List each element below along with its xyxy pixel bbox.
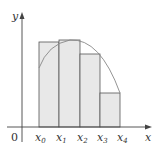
x-axis-label: x: [145, 131, 152, 144]
tick-x2: x2: [77, 131, 88, 145]
tick-x4: x4: [117, 131, 128, 145]
tick-x0: x0: [35, 131, 46, 145]
rectangles: [39, 40, 120, 127]
rectangle-1: [39, 42, 59, 127]
tick-x3: x3: [97, 131, 108, 145]
x-tick-labels: x0 x1 x2 x3 x4: [35, 131, 128, 145]
origin-label: 0: [11, 131, 18, 144]
rectangle-3: [80, 54, 100, 127]
y-axis-label: y: [11, 10, 19, 23]
riemann-sum-diagram: y x 0 x0 x1 x2 x3 x4: [0, 0, 161, 150]
tick-x1: x1: [56, 131, 67, 145]
rectangle-2: [59, 40, 80, 127]
y-axis-arrow-icon: [20, 12, 25, 19]
x-axis-arrow-icon: [145, 125, 152, 130]
rectangle-4: [100, 93, 120, 127]
